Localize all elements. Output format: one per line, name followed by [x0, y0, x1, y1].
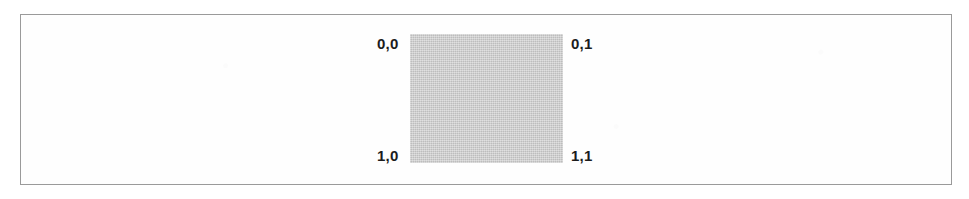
corner-label-top-right: 0,1	[571, 36, 592, 51]
figure-root: 0,0 0,1 1,0 1,1	[0, 0, 969, 199]
gray-unit-square	[410, 34, 563, 163]
corner-label-top-left: 0,0	[377, 36, 398, 51]
corner-label-bottom-right: 1,1	[571, 148, 592, 163]
corner-label-bottom-left: 1,0	[377, 148, 398, 163]
